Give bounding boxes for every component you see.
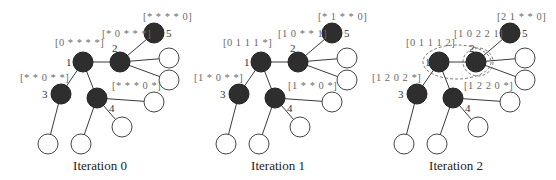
panel-caption: Iteration 2 bbox=[429, 158, 483, 173]
node-3-index: 3 bbox=[42, 88, 48, 100]
regular-node bbox=[427, 134, 447, 154]
landmark-node-3 bbox=[51, 84, 71, 104]
regular-node bbox=[515, 48, 535, 68]
node-1-index: 1 bbox=[66, 56, 72, 68]
regular-node bbox=[159, 70, 179, 90]
node-3-vector: [1 * 0 * *] bbox=[194, 72, 243, 83]
landmark-node-1 bbox=[429, 52, 449, 72]
node-4-vector: [1 * * 0 *] bbox=[288, 80, 337, 91]
panel-caption: Iteration 0 bbox=[73, 158, 127, 173]
landmark-node-2 bbox=[288, 52, 308, 72]
landmark-node-3 bbox=[229, 84, 249, 104]
node-2-vector: [* 0 * * *] bbox=[102, 28, 151, 39]
landmark-node-4 bbox=[443, 88, 463, 108]
node-4-index: 4 bbox=[109, 102, 115, 114]
regular-node bbox=[71, 134, 91, 154]
regular-node bbox=[500, 92, 520, 112]
regular-node bbox=[468, 117, 488, 137]
regular-node bbox=[216, 134, 236, 154]
regular-node bbox=[249, 134, 269, 154]
panel-iteration-0: 1 2 3 4 5 [0 * * * *] [* 0 * * *] [* * 0… bbox=[20, 11, 192, 173]
node-4-index: 4 bbox=[465, 102, 471, 114]
node-1-index: 1 bbox=[244, 56, 250, 68]
node-1-vector: [0 * * * *] bbox=[55, 37, 104, 48]
regular-node bbox=[159, 48, 179, 68]
node-5-index: 5 bbox=[344, 27, 350, 39]
node-5-vector: [* * * * 0] bbox=[143, 11, 192, 22]
node-3-index: 3 bbox=[220, 88, 226, 100]
regular-node bbox=[515, 70, 535, 90]
diagram-canvas: 1 2 3 4 5 [0 * * * *] [* 0 * * *] [* * 0… bbox=[0, 0, 556, 180]
node-1-vector: [0 1 1 1 *] bbox=[223, 37, 272, 48]
regular-node bbox=[337, 48, 357, 68]
landmark-node-4 bbox=[87, 88, 107, 108]
node-4-vector: [1 2 2 0 *] bbox=[464, 80, 513, 91]
regular-node bbox=[322, 92, 342, 112]
panel-iteration-1: 1 2 3 4 5 [0 1 1 1 *] [1 0 * * 1] [1 * 0… bbox=[194, 11, 367, 173]
node-2-index: 2 bbox=[290, 42, 296, 54]
node-2-index: 2 bbox=[469, 42, 475, 54]
node-4-vector: [* * * 0 *] bbox=[112, 80, 161, 91]
landmark-node-1 bbox=[251, 52, 271, 72]
regular-node bbox=[394, 134, 414, 154]
regular-node bbox=[337, 70, 357, 90]
landmark-node-2 bbox=[466, 52, 486, 72]
regular-node bbox=[112, 117, 132, 137]
node-5-vector: [* 1 * * 0] bbox=[318, 11, 367, 22]
node-2-vector: [1 0 * * 1] bbox=[278, 28, 327, 39]
node-3-index: 3 bbox=[398, 88, 404, 100]
regular-node bbox=[290, 117, 310, 137]
node-5-index: 5 bbox=[522, 27, 528, 39]
node-4-index: 4 bbox=[287, 102, 293, 114]
landmark-node-3 bbox=[407, 84, 427, 104]
panel-caption: Iteration 1 bbox=[251, 158, 305, 173]
node-1-index: 1 bbox=[425, 56, 431, 68]
node-2-vector: [1 0 2 2 1] bbox=[454, 28, 503, 39]
node-5-vector: [2 1 * * 0] bbox=[497, 11, 546, 22]
landmark-node-4 bbox=[265, 88, 285, 108]
node-3-vector: [* * 0 * *] bbox=[20, 72, 69, 83]
panel-iteration-2: 1 2 3 4 5 [0 1 1 1 2] [1 0 2 2 1] [1 2 0… bbox=[372, 11, 546, 173]
regular-node bbox=[38, 134, 58, 154]
landmark-node-1 bbox=[73, 52, 93, 72]
node-5-index: 5 bbox=[166, 27, 172, 39]
regular-node bbox=[144, 92, 164, 112]
node-2-index: 2 bbox=[112, 42, 118, 54]
node-3-vector: [1 2 0 2 *] bbox=[372, 72, 421, 83]
landmark-node-2 bbox=[110, 52, 130, 72]
node-1-vector: [0 1 1 1 2] bbox=[406, 37, 455, 48]
